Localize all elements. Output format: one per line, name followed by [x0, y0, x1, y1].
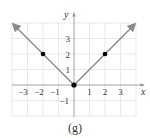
- x-tick-labels: −3 −2 −1 1 2 3: [18, 87, 123, 97]
- point-neg2-2: [41, 52, 46, 57]
- axes: [12, 13, 144, 117]
- y-tick-labels: −1 1 2 3: [59, 34, 70, 106]
- svg-text:−2: −2: [34, 87, 44, 97]
- x-axis-label: x: [140, 86, 146, 97]
- svg-text:2: 2: [66, 50, 71, 60]
- point-origin: [71, 82, 76, 87]
- svg-text:−1: −1: [50, 87, 60, 97]
- absolute-value-graph: x y −3 −2 −1 1 2 3 −1 1 2 3: [0, 0, 150, 138]
- svg-text:2: 2: [103, 87, 108, 97]
- svg-text:1: 1: [87, 87, 92, 97]
- svg-text:3: 3: [66, 34, 71, 44]
- y-axis-label: y: [63, 9, 69, 20]
- svg-text:−3: −3: [18, 87, 28, 97]
- point-2-2: [103, 52, 108, 57]
- svg-text:1: 1: [66, 65, 71, 75]
- svg-text:3: 3: [118, 87, 123, 97]
- svg-text:−1: −1: [59, 96, 69, 106]
- figure-caption: (g): [0, 121, 150, 136]
